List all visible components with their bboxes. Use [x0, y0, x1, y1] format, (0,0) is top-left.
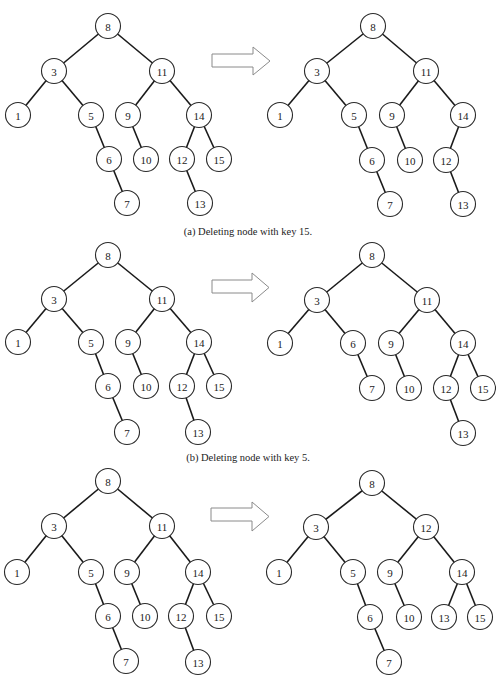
node-key: 13 [458, 199, 470, 211]
node-key: 8 [105, 250, 111, 262]
node-key: 13 [193, 427, 205, 439]
node-key: 3 [314, 295, 320, 307]
tree-node-15: 15 [471, 376, 496, 401]
tree-node-15: 15 [207, 147, 232, 172]
node-key: 9 [387, 567, 393, 579]
node-key: 5 [88, 110, 94, 122]
node-key: 10 [404, 612, 416, 624]
node-key: 7 [124, 427, 130, 439]
tree-node-10: 10 [397, 605, 422, 630]
tree-node-1: 1 [268, 331, 293, 356]
node-key: 12 [176, 611, 187, 623]
tree-node-10: 10 [134, 147, 159, 172]
tree-node-1: 1 [267, 560, 292, 585]
tree-node-5: 5 [341, 560, 366, 585]
tree-node-12: 12 [169, 604, 194, 629]
node-key: 9 [125, 337, 131, 349]
tree-node-1: 1 [6, 330, 31, 355]
tree-node-7: 7 [360, 376, 385, 401]
node-key: 6 [369, 155, 375, 167]
node-key: 15 [214, 154, 226, 166]
tree-node-8: 8 [96, 14, 121, 39]
node-key: 11 [422, 295, 433, 307]
tree-node-9: 9 [380, 103, 405, 128]
caption-b: (b) Deleting node with key 5. [0, 452, 496, 463]
tree-node-10: 10 [134, 374, 159, 399]
tree-c-before: 8311159146101215713 [5, 469, 232, 675]
node-key: 8 [370, 21, 376, 33]
tree-node-8: 8 [96, 469, 121, 494]
panel-b: 8311159146101215713831116914710121513 [6, 243, 496, 446]
node-key: 13 [439, 612, 451, 624]
node-key: 14 [193, 567, 205, 579]
right-arrow-icon [212, 47, 270, 75]
tree-node-9: 9 [116, 103, 141, 128]
node-key: 3 [51, 294, 57, 306]
tree-node-13: 13 [451, 192, 476, 217]
tree-node-12: 12 [170, 374, 195, 399]
tree-node-6: 6 [358, 605, 383, 630]
tree-node-3: 3 [42, 59, 67, 84]
tree-node-9: 9 [115, 560, 140, 585]
node-key: 11 [421, 66, 432, 78]
tree-node-5: 5 [342, 103, 367, 128]
node-key: 3 [51, 521, 57, 533]
node-key: 1 [15, 110, 21, 122]
node-key: 14 [194, 110, 206, 122]
node-key: 14 [194, 337, 206, 349]
tree-b-after: 831116914710121513 [268, 243, 496, 446]
tree-node-13: 13 [188, 191, 213, 216]
node-key: 8 [369, 478, 375, 490]
node-key: 12 [441, 383, 452, 395]
tree-node-5: 5 [79, 103, 104, 128]
node-key: 9 [124, 567, 130, 579]
node-key: 9 [125, 110, 131, 122]
node-key: 10 [405, 155, 417, 167]
tree-node-7: 7 [377, 650, 402, 675]
node-key: 1 [15, 337, 21, 349]
node-key: 1 [14, 567, 20, 579]
node-key: 10 [404, 383, 416, 395]
right-arrow-icon [211, 502, 269, 531]
node-key: 10 [141, 381, 153, 393]
tree-node-11: 11 [150, 287, 175, 312]
node-key: 13 [458, 428, 470, 440]
node-key: 8 [105, 21, 111, 33]
node-key: 9 [389, 110, 395, 122]
tree-node-10: 10 [397, 376, 422, 401]
tree-node-8: 8 [96, 243, 121, 268]
tree-node-6: 6 [341, 331, 366, 356]
node-key: 3 [313, 522, 319, 534]
node-key: 11 [157, 294, 168, 306]
tree-node-1: 1 [5, 560, 30, 585]
tree-node-7: 7 [114, 649, 139, 674]
tree-node-6: 6 [360, 148, 385, 173]
node-key: 14 [458, 110, 470, 122]
tree-node-10: 10 [133, 604, 158, 629]
node-key: 5 [88, 337, 94, 349]
tree-node-8: 8 [360, 243, 385, 268]
tree-node-13: 13 [451, 421, 476, 446]
node-key: 6 [350, 338, 356, 350]
tree-node-13: 13 [432, 605, 457, 630]
node-key: 15 [214, 611, 226, 623]
tree-node-14: 14 [450, 560, 475, 585]
node-key: 10 [140, 611, 152, 623]
tree-node-9: 9 [379, 331, 404, 356]
tree-node-7: 7 [378, 192, 403, 217]
tree-a-before: 8311159146101215713 [6, 14, 232, 216]
caption-a: (a) Deleting node with key 15. [0, 226, 496, 237]
tree-node-12: 12 [170, 147, 195, 172]
tree-node-9: 9 [378, 560, 403, 585]
node-key: 1 [276, 567, 282, 579]
tree-node-14: 14 [187, 330, 212, 355]
tree-node-3: 3 [42, 287, 67, 312]
panel-a: 831115914610121571383111591461012713 [6, 14, 476, 217]
bst-deletion-diagram: 8311159146101215713831115914610127138311… [0, 0, 496, 685]
node-key: 3 [51, 66, 57, 78]
tree-node-11: 11 [150, 59, 175, 84]
node-key: 11 [157, 521, 168, 533]
node-key: 7 [123, 656, 129, 668]
node-key: 3 [314, 66, 320, 78]
tree-c-after: 83121591461013157 [267, 471, 493, 675]
